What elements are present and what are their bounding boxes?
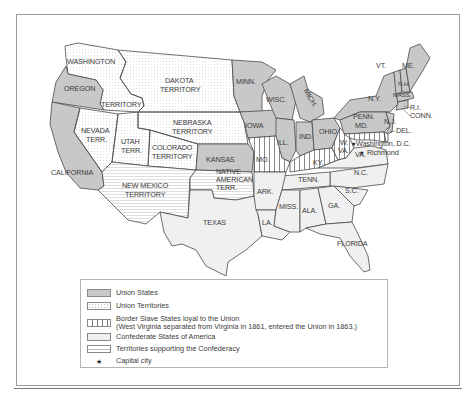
label-washington-dc: Washington, D.C. [356,139,411,148]
legend-item-union-territories: Union Territories [87,301,169,311]
label-wisc: WISC. [266,95,286,104]
label-ky: KY. [313,158,323,167]
label-dakota-territory: TERRITORY [160,85,201,94]
label-wva: VA. [338,146,349,155]
capital-star-dc-icon: ★ [351,141,356,147]
label-colorado: COLORADO [152,143,193,152]
territories-confederacy-swatch [87,345,111,353]
legend-item-border-states: Border Slave States loyal to the Union (… [87,313,357,333]
legend-label: Union Territories [116,302,169,309]
label-ohio: OHIO [319,127,337,136]
union-states-swatch [87,289,111,297]
label-new-mexico: NEW MEXICO [122,181,169,190]
label-florida: FLORIDA [337,239,368,248]
label-native-terr: TERR. [216,183,237,192]
label-conn: CONN. [410,111,433,120]
legend-label: Union States [116,289,158,296]
legend-label: Capital city [116,357,152,364]
label-md: MD. [355,121,368,130]
label-miss: MISS. [279,202,298,211]
confederate-swatch [87,333,111,341]
border-states-swatch [87,319,111,327]
label-del: DEL. [396,126,412,135]
legend-item-territories-confederacy: Territories supporting the Confederacy [87,344,240,354]
label-nj: N.J. [384,117,396,126]
label-utah: UTAH [121,137,140,146]
legend-label: Confederate States of America [116,333,215,340]
legend-sublabel: (West Virginia separated from Virginia i… [116,323,357,331]
label-vt: VT. [376,61,386,70]
union-territories-swatch [87,302,111,310]
label-colorado-territory: TERRITORY [152,152,193,161]
label-ind: IND. [299,132,313,141]
label-nebraska: NEBRASKA [173,118,212,127]
capital-star-icon: ★ [359,150,364,156]
label-richmond: Richmond [367,148,399,157]
legend-label: Territories supporting the Confederacy [116,345,240,352]
label-la: LA. [262,218,273,227]
label-ny: N.Y. [368,94,381,103]
label-sc: S.C. [345,186,359,195]
label-ark: ARK. [257,187,273,196]
label-oregon: OREGON [64,84,95,93]
label-nevada: NEVADA [81,126,110,135]
caption-divider [14,388,462,389]
label-nh: N.H. [398,81,410,87]
label-iowa: IOWA [245,121,264,130]
label-penn: PENN. [353,112,375,121]
label-dakota: DAKOTA [165,76,194,85]
legend-item-capital-city: ★ Capital city [87,356,152,366]
legend-label-group: Border Slave States loyal to the Union (… [116,315,357,331]
label-utah-terr: TERR. [121,146,142,155]
label-texas: TEXAS [203,218,226,227]
map-legend: Union States Union Territories Border Sl… [80,279,388,368]
label-tenn: TENN. [298,175,319,184]
label-nevada-terr: TERR. [86,135,107,144]
label-kansas: KANSAS [206,155,235,164]
label-washington: WASHINGTON [67,57,115,66]
label-me: ME. [402,61,415,70]
label-territory: TERRITORY [101,100,142,109]
label-ill: ILL. [277,138,289,147]
legend-item-confederate-states: Confederate States of America [87,332,215,342]
label-new-mexico-territory: TERRITORY [125,190,166,199]
label-california: CALIFORNIA [51,168,93,177]
label-nc: N.C. [354,168,368,177]
label-nebraska-territory: TERRITORY [172,127,213,136]
label-mass: MASS. [393,92,412,98]
capital-star-icon: ★ [87,358,111,365]
label-mo: MO. [256,155,269,164]
legend-item-union-states: Union States [87,288,158,298]
label-ala: ALA. [302,206,317,215]
label-ga: GA. [328,201,340,210]
label-minn: MINN. [236,77,256,86]
